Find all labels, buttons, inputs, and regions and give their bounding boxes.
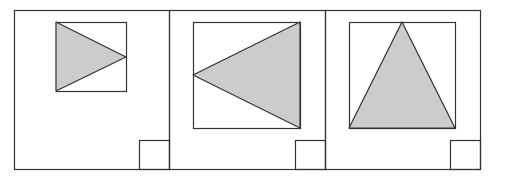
panel-2 <box>170 11 326 170</box>
corner-square <box>296 141 326 170</box>
panel-3 <box>326 11 481 170</box>
shaded-triangle <box>56 22 126 91</box>
shaded-triangle <box>193 22 300 128</box>
panel-1 <box>15 11 170 170</box>
panel-frame <box>15 11 170 170</box>
corner-square <box>451 141 481 170</box>
shaded-triangle <box>349 22 455 128</box>
triangle-square-diagram <box>0 0 508 180</box>
corner-square <box>140 141 170 170</box>
